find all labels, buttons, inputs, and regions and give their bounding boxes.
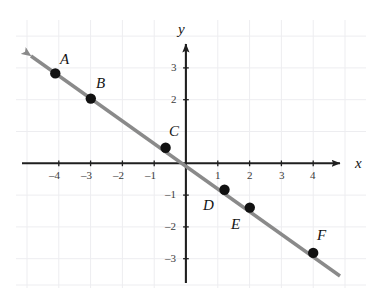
x-tick-label-4: 4 [310,170,316,181]
point-label-c: C [169,124,179,139]
data-point-a [50,68,60,78]
point-label-f: F [317,228,326,243]
data-point-b [86,93,96,103]
data-point-f [308,248,318,258]
y-tick-label--2: –2 [165,221,176,232]
data-point-d [219,185,229,195]
y-tick-label--3: –3 [165,253,176,264]
point-label-b: B [96,76,105,91]
x-tick-label--1: –1 [145,170,156,181]
coordinate-plane-figure: x y –4 –3 –2 –1 1 2 3 4 3 2 –1 –2 –3 A B… [0,0,379,298]
y-tick-label-2: 2 [171,94,177,105]
point-label-d: D [203,198,214,213]
x-axis-label: x [355,156,362,171]
data-point-e [245,202,255,212]
y-tick-label--1: –1 [165,189,176,200]
x-tick-label--4: –4 [49,170,60,181]
y-axis-label: y [178,22,185,37]
x-tick-label-2: 2 [247,170,253,181]
y-tick-label-3: 3 [171,62,177,73]
x-tick-label-3: 3 [279,170,285,181]
x-tick-label--3: –3 [81,170,92,181]
point-label-a: A [60,52,69,67]
x-tick-label--2: –2 [113,170,124,181]
plot-canvas [0,0,379,298]
data-point-c [160,143,170,153]
x-tick-label-1: 1 [215,170,221,181]
point-label-e: E [231,217,240,232]
